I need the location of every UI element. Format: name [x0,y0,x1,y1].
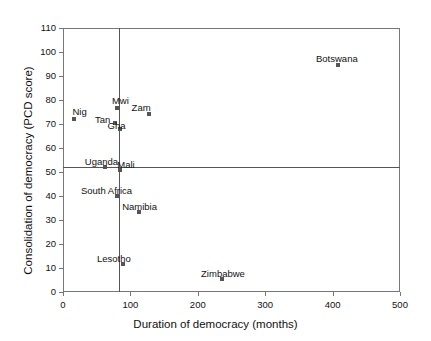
data-point-label: Mwi [112,95,129,106]
x-tick-mark [400,292,401,296]
y-tick-mark [59,220,63,221]
data-point-label: South Africa [81,185,132,196]
horizontal-reference-line [63,167,400,168]
x-tick-label: 100 [110,299,150,310]
x-tick-label: 0 [43,299,83,310]
y-tick-mark [59,244,63,245]
x-axis-title: Duration of democracy (months) [0,318,431,330]
data-point-label: Zimbabwe [201,268,245,279]
x-tick-label: 500 [380,299,420,310]
y-tick-mark [59,148,63,149]
y-axis-title-wrapper: Consolidation of democracy (PCD score) [20,0,40,341]
y-tick-mark [59,28,63,29]
y-tick-mark [59,196,63,197]
data-point-label: Zam [132,102,151,113]
y-axis-title: Consolidation of democracy (PCD score) [20,0,36,341]
x-tick-mark [63,292,64,296]
data-point-label: Uganda [85,156,118,167]
x-tick-mark [333,292,334,296]
y-tick-mark [59,100,63,101]
data-point-label: Gha [108,120,126,131]
data-point-marker[interactable] [115,106,119,110]
y-tick-mark [59,76,63,77]
x-tick-mark [130,292,131,296]
x-tick-mark [265,292,266,296]
x-tick-mark [198,292,199,296]
y-tick-mark [59,172,63,173]
data-point-label: Mali [117,159,134,170]
x-tick-label: 300 [245,299,285,310]
data-point-marker[interactable] [72,117,76,121]
y-tick-mark [59,124,63,125]
x-tick-label: 200 [178,299,218,310]
data-point-label: Namibia [122,201,157,212]
data-point-label: Lesotho [97,253,131,264]
x-tick-label: 400 [313,299,353,310]
scatter-chart: 0102030405060708090100110 01002003004005… [0,0,431,341]
y-tick-mark [59,52,63,53]
data-point-label: Nig [72,106,86,117]
data-point-label: Botswana [316,53,358,64]
y-tick-mark [59,268,63,269]
